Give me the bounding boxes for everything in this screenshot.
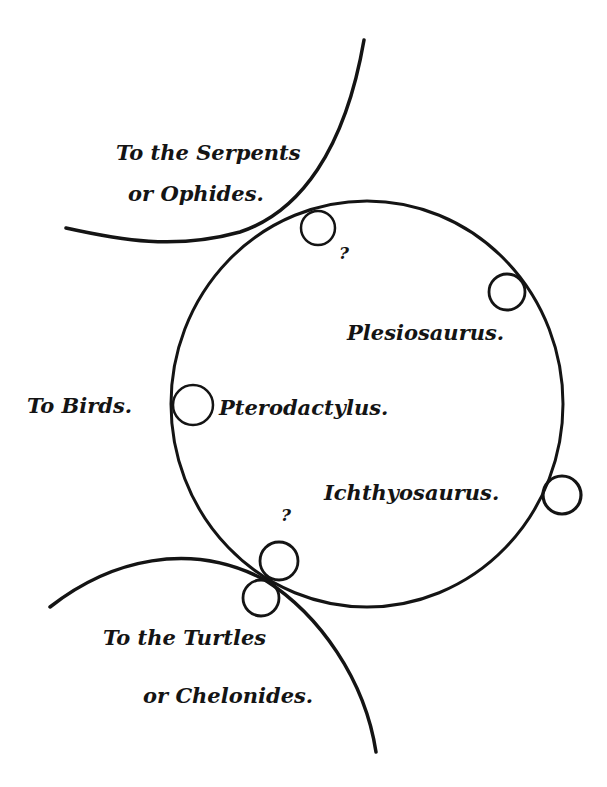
label-unknown-top: ? [339,243,350,263]
node-ichthyosaurus [543,476,581,514]
label-to-birds: To Birds. [27,393,132,418]
label-turtles-line2: or Chelonides. [143,683,313,708]
node-unknown-top [301,211,335,245]
affinity-diagram: To the Serpents or Ophides. ? Plesiosaur… [0,0,607,787]
turtles-arc [50,559,376,752]
label-serpents-line2: or Ophides. [128,181,264,206]
node-unknown-bottom [260,542,298,580]
label-turtles-line1: To the Turtles [103,625,266,650]
node-pterodactylus [173,385,213,425]
label-pterodactylus: Pterodactylus. [218,395,388,420]
label-unknown-bottom: ? [281,505,292,525]
node-turtles-link [243,580,279,616]
label-serpents-line1: To the Serpents [116,140,301,165]
label-plesiosaurus: Plesiosaurus. [346,320,504,345]
label-ichthyosaurus: Ichthyosaurus. [323,480,499,505]
node-plesiosaurus [489,274,525,310]
